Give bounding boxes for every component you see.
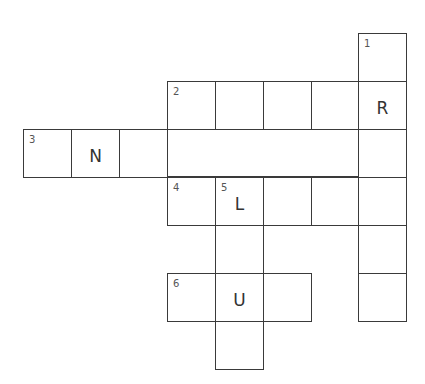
cell-letter [168, 274, 215, 321]
crossword-cell[interactable]: N [71, 129, 120, 178]
cell-letter [312, 178, 359, 225]
crossword-cell[interactable]: 5L [215, 177, 264, 226]
cell-letter [24, 130, 71, 177]
cell-letter [312, 82, 359, 129]
cell-letter: R [359, 82, 406, 129]
cell-letter [216, 82, 263, 129]
cell-letter [264, 274, 311, 321]
cell-letter [216, 322, 263, 369]
crossword-cell[interactable] [311, 81, 360, 130]
crossword-cell[interactable] [358, 129, 407, 178]
blank-strip [167, 129, 359, 177]
cell-letter [168, 82, 215, 129]
cell-letter [359, 274, 406, 321]
crossword-cell[interactable]: 6 [167, 273, 216, 322]
cell-letter [359, 226, 406, 273]
crossword-cell[interactable] [215, 81, 264, 130]
cell-letter [168, 178, 215, 225]
crossword-cell[interactable] [263, 273, 312, 322]
crossword-cell[interactable] [263, 177, 312, 226]
crossword-cell[interactable]: U [215, 273, 264, 322]
cell-letter [264, 178, 311, 225]
cell-letter [359, 130, 406, 177]
cell-letter [359, 178, 406, 225]
crossword-cell[interactable]: 1 [358, 33, 407, 82]
cell-letter: N [72, 130, 119, 177]
crossword-cell[interactable]: 4 [167, 177, 216, 226]
crossword-cell[interactable] [215, 225, 264, 274]
crossword-cell[interactable] [358, 225, 407, 274]
crossword-cell[interactable] [263, 81, 312, 130]
crossword-cell[interactable]: 3 [23, 129, 72, 178]
cell-letter [264, 82, 311, 129]
cell-letter [359, 34, 406, 81]
crossword-cell[interactable] [358, 273, 407, 322]
cell-letter: U [216, 274, 263, 321]
crossword-cell[interactable] [311, 177, 360, 226]
crossword-cell[interactable]: 2 [167, 81, 216, 130]
crossword-cell[interactable]: R [358, 81, 407, 130]
crossword-cell[interactable] [119, 129, 168, 178]
cell-letter [216, 226, 263, 273]
crossword-cell[interactable] [358, 177, 407, 226]
cell-letter: L [216, 178, 263, 225]
crossword-cell[interactable] [215, 321, 264, 370]
cell-letter [120, 130, 167, 177]
